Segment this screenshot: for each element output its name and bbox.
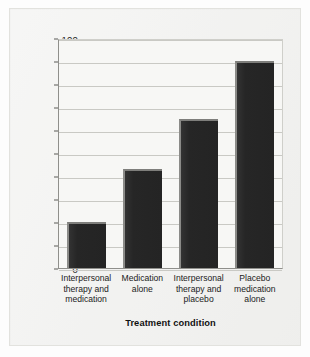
x-category-label-line: medication	[228, 284, 282, 295]
x-category-label-1: Interpersonaltherapy andmedication	[58, 273, 114, 305]
bar-fill	[237, 63, 274, 268]
bar-fill	[69, 224, 106, 268]
x-category-label-line: medication	[59, 294, 113, 305]
x-category-label-line: Medication	[115, 273, 169, 284]
bar-2	[123, 169, 162, 268]
bar-fill	[125, 171, 162, 268]
x-category-label-line: alone	[115, 284, 169, 295]
bars-group	[59, 40, 282, 268]
x-category-label-line: Interpersonal	[59, 273, 113, 284]
bar-chart-figure: Relapse rate (%) 0102030405060708090100 …	[0, 0, 310, 357]
bar-3	[179, 119, 218, 269]
gridline-0	[59, 270, 282, 271]
x-category-label-line: alone	[228, 294, 282, 305]
bar-fill	[181, 121, 218, 269]
x-category-label-line: therapy and	[59, 284, 113, 295]
x-axis-title: Treatment condition	[58, 318, 283, 328]
bar-4	[235, 61, 274, 268]
x-category-label-4: Placebomedicationalone	[227, 273, 283, 305]
x-category-label-line: Interpersonal	[172, 273, 226, 284]
x-category-label-3: Interpersonaltherapy andplacebo	[171, 273, 227, 305]
bar-1	[67, 222, 106, 268]
x-category-label-line: placebo	[172, 294, 226, 305]
plot-area	[58, 39, 283, 269]
x-category-label-line: therapy and	[172, 284, 226, 295]
x-category-label-2: Medicationalone	[114, 273, 170, 305]
x-category-label-line: Placebo	[228, 273, 282, 284]
x-axis-category-labels: Interpersonaltherapy andmedicationMedica…	[58, 273, 283, 305]
